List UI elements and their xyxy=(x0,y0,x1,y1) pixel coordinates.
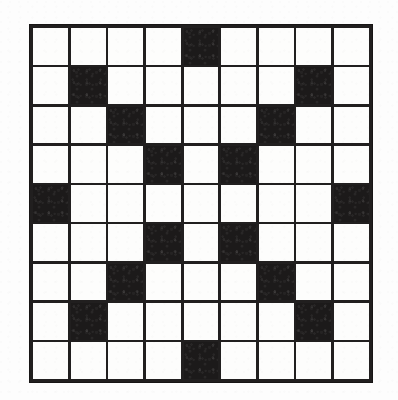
grid-cell-white[interactable] xyxy=(334,264,369,301)
grid-cell-white[interactable] xyxy=(221,185,256,222)
grid-cell-white[interactable] xyxy=(146,342,181,379)
grid-cell-white[interactable] xyxy=(184,107,219,144)
grid-cell-white[interactable] xyxy=(259,342,294,379)
grid-cell-black xyxy=(259,107,294,144)
grid-cell-white[interactable] xyxy=(108,67,143,104)
grid-cell-white[interactable] xyxy=(296,342,331,379)
grid-cell-white[interactable] xyxy=(71,185,106,222)
grid-cell-black xyxy=(71,67,106,104)
grid-cell-white[interactable] xyxy=(184,224,219,261)
grid-cell-white[interactable] xyxy=(221,67,256,104)
grid-cell-black xyxy=(221,224,256,261)
grid-cell-white[interactable] xyxy=(296,107,331,144)
grid-cell-white[interactable] xyxy=(71,224,106,261)
crossword-grid[interactable] xyxy=(29,24,373,383)
grid-cell-white[interactable] xyxy=(184,146,219,183)
grid-cell-white[interactable] xyxy=(33,342,68,379)
grid-cell-white[interactable] xyxy=(71,264,106,301)
grid-cell-white[interactable] xyxy=(221,303,256,340)
grid-cell-white[interactable] xyxy=(334,303,369,340)
grid-cell-black xyxy=(221,146,256,183)
grid-cell-black xyxy=(146,224,181,261)
grid-cell-white[interactable] xyxy=(296,146,331,183)
grid-cell-white[interactable] xyxy=(146,107,181,144)
grid-cell-white[interactable] xyxy=(184,303,219,340)
grid-cell-white[interactable] xyxy=(33,264,68,301)
grid-cell-black xyxy=(184,342,219,379)
grid-cell-white[interactable] xyxy=(33,224,68,261)
grid-cell-black xyxy=(108,107,143,144)
grid-cell-white[interactable] xyxy=(259,185,294,222)
grid-cell-white[interactable] xyxy=(184,264,219,301)
grid-cell-black xyxy=(259,264,294,301)
grid-cell-white[interactable] xyxy=(259,67,294,104)
grid-cell-white[interactable] xyxy=(221,28,256,65)
grid-cell-white[interactable] xyxy=(221,342,256,379)
grid-cell-black xyxy=(33,185,68,222)
grid-cell-white[interactable] xyxy=(108,303,143,340)
grid-cell-white[interactable] xyxy=(33,67,68,104)
grid-cell-black xyxy=(71,303,106,340)
grid-cell-white[interactable] xyxy=(259,224,294,261)
grid-cell-white[interactable] xyxy=(221,264,256,301)
grid-cell-white[interactable] xyxy=(334,107,369,144)
grid-cell-white[interactable] xyxy=(221,107,256,144)
grid-cell-black xyxy=(108,264,143,301)
grid-cell-black xyxy=(296,303,331,340)
grid-cell-white[interactable] xyxy=(146,185,181,222)
grid-cell-black xyxy=(296,67,331,104)
grid-cell-white[interactable] xyxy=(71,342,106,379)
grid-cell-white[interactable] xyxy=(71,28,106,65)
grid-cell-white[interactable] xyxy=(296,224,331,261)
grid-cell-white[interactable] xyxy=(334,342,369,379)
grid-cell-white[interactable] xyxy=(146,303,181,340)
grid-cell-white[interactable] xyxy=(259,303,294,340)
grid-cell-white[interactable] xyxy=(334,224,369,261)
grid-cell-white[interactable] xyxy=(296,185,331,222)
grid-cell-white[interactable] xyxy=(108,342,143,379)
grid-cell-white[interactable] xyxy=(146,28,181,65)
grid-cell-black xyxy=(146,146,181,183)
grid-cell-white[interactable] xyxy=(296,28,331,65)
grid-cell-white[interactable] xyxy=(108,185,143,222)
grid-cell-white[interactable] xyxy=(334,28,369,65)
scanned-page xyxy=(0,0,398,400)
grid-cell-white[interactable] xyxy=(108,146,143,183)
grid-cell-white[interactable] xyxy=(71,107,106,144)
grid-cell-white[interactable] xyxy=(108,28,143,65)
grid-cell-white[interactable] xyxy=(108,224,143,261)
grid-cell-white[interactable] xyxy=(334,67,369,104)
grid-cell-white[interactable] xyxy=(296,264,331,301)
grid-cell-white[interactable] xyxy=(259,28,294,65)
grid-cell-white[interactable] xyxy=(71,146,106,183)
grid-cell-white[interactable] xyxy=(259,146,294,183)
grid-cell-white[interactable] xyxy=(33,303,68,340)
grid-cell-white[interactable] xyxy=(146,67,181,104)
grid-cell-black xyxy=(334,185,369,222)
grid-cell-white[interactable] xyxy=(146,264,181,301)
grid-cell-white[interactable] xyxy=(33,146,68,183)
grid-cell-white[interactable] xyxy=(334,146,369,183)
grid-cell-black xyxy=(184,28,219,65)
grid-cell-white[interactable] xyxy=(184,67,219,104)
grid-cell-white[interactable] xyxy=(33,107,68,144)
grid-cell-white[interactable] xyxy=(184,185,219,222)
grid-cell-white[interactable] xyxy=(33,28,68,65)
